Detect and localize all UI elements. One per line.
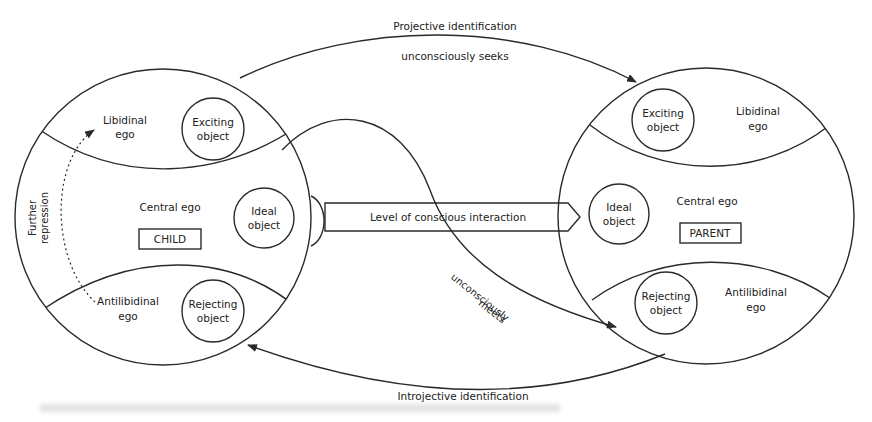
svg-text:object: object: [603, 215, 635, 227]
parent-libidinal-ego: Libidinal: [736, 105, 780, 117]
child-central-ego: Central ego: [139, 201, 200, 213]
child-exciting-object: Exciting object: [182, 98, 244, 160]
parent-psyche: Exciting object Libidinal ego Ideal obje…: [558, 68, 854, 364]
svg-text:object: object: [650, 304, 682, 316]
unconsciously-seeks-label: unconsciously seeks: [401, 50, 508, 62]
child-antilibidinal-ego: Antilibidinal: [97, 295, 159, 307]
svg-text:Rejecting: Rejecting: [189, 298, 238, 310]
parent-antilibidinal-ego: Antilibidinal: [725, 286, 787, 298]
svg-text:Ideal: Ideal: [606, 201, 632, 213]
child-rejecting-object: Rejecting object: [182, 280, 244, 342]
svg-text:Exciting: Exciting: [192, 116, 234, 128]
child-psyche: Libidinal ego Exciting object Central eg…: [15, 69, 324, 365]
svg-text:object: object: [647, 121, 679, 133]
blurred-caption: [40, 404, 560, 412]
further-repression-label: Further repression: [27, 192, 50, 244]
parent-libidinal-ego-line2: ego: [748, 120, 768, 132]
fairbairn-diagram: Projective identification unconsciously …: [0, 0, 872, 422]
svg-text:object: object: [197, 130, 229, 142]
svg-text:repression: repression: [39, 192, 50, 244]
svg-text:Rejecting: Rejecting: [642, 290, 691, 302]
parent-central-ego: Central ego: [676, 195, 737, 207]
svg-text:Ideal: Ideal: [251, 205, 277, 217]
child-antilibidinal-ego-line2: ego: [118, 310, 138, 322]
child-box-label: CHILD: [154, 233, 186, 245]
svg-text:object: object: [248, 219, 280, 231]
unconsciously-meets-arrow: [282, 119, 616, 327]
parent-antilibidinal-ego-line2: ego: [746, 301, 766, 313]
parent-exciting-object: Exciting object: [632, 89, 694, 151]
svg-text:Exciting: Exciting: [642, 107, 684, 119]
child-libidinal-ego: Libidinal: [103, 114, 147, 126]
parent-rejecting-object: Rejecting object: [635, 272, 697, 334]
introjective-identification-label: Introjective identification: [397, 390, 528, 402]
child-ideal-object: Ideal object: [234, 188, 294, 248]
svg-text:Further: Further: [27, 199, 38, 236]
introjective-identification-arrow: [248, 345, 665, 389]
svg-text:object: object: [197, 312, 229, 324]
parent-ideal-object: Ideal object: [589, 184, 649, 244]
parent-box-label: PARENT: [689, 227, 731, 239]
child-libidinal-ego-line2: ego: [115, 128, 135, 140]
projective-identification-label: Projective identification: [393, 20, 517, 32]
conscious-interaction-label: Level of conscious interaction: [370, 211, 526, 223]
conscious-interaction-bar: Level of conscious interaction: [325, 203, 580, 231]
